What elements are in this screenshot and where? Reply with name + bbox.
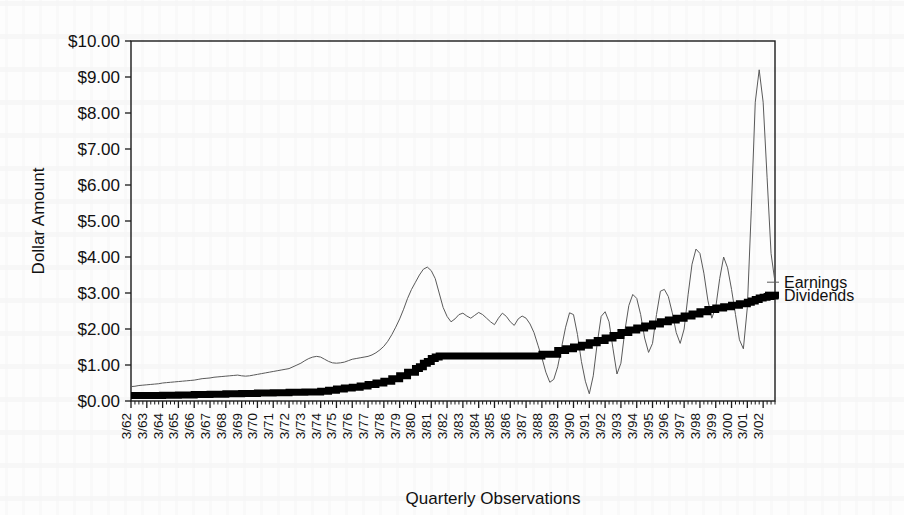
y-axis-tick-label: $5.00 [77,212,120,231]
x-axis-tick-label: 3/90 [562,413,577,439]
x-axis-tick-label: 3/02 [751,413,766,439]
x-axis-tick-label: 3/72 [277,413,292,439]
x-axis-tick-label: 3/95 [641,413,656,439]
y-axis-tick-label: $2.00 [77,320,120,339]
x-axis-tick-label: 3/87 [514,413,529,439]
x-axis-tick-label: 3/01 [735,413,750,439]
series-line-dividends [131,295,775,395]
y-axis-tick-label: $6.00 [77,176,120,195]
y-axis-tick-label: $7.00 [77,140,120,159]
x-axis-tick-label: 3/71 [261,413,276,439]
y-axis-tick-label: $10.00 [68,32,120,51]
series-line-earnings [131,70,775,394]
line-chart: $0.00$1.00$2.00$3.00$4.00$5.00$6.00$7.00… [0,0,904,515]
x-axis-tick-label: 3/92 [593,413,608,439]
x-axis-tick-label: 3/00 [720,413,735,439]
x-axis-tick-label: 3/96 [656,413,671,439]
x-axis-tick-label: 3/83 [451,413,466,439]
y-axis-title: Dollar Amount [29,167,48,274]
x-axis-tick-label: 3/82 [435,413,450,439]
y-axis-tick-label: $4.00 [77,248,120,267]
x-axis-tick-label: 3/98 [688,413,703,439]
x-axis-title: Quarterly Observations [406,489,581,508]
x-axis-tick-label: 3/88 [530,413,545,439]
x-axis-tick-label: 3/69 [230,413,245,439]
x-axis-tick-label: 3/80 [403,413,418,439]
y-axis-tick-label: $8.00 [77,104,120,123]
x-axis-tick-label: 3/91 [577,413,592,439]
x-axis-tick-label: 3/76 [340,413,355,439]
x-axis-tick-label: 3/67 [198,413,213,439]
legend-label-dividends: Dividends [784,287,854,304]
x-axis-tick-label: 3/89 [546,413,561,439]
y-axis-tick-label: $0.00 [77,392,120,411]
x-axis-tick-label: 3/99 [704,413,719,439]
x-axis-tick-label: 3/62 [119,413,134,439]
x-axis-tick-label: 3/75 [324,413,339,439]
x-axis-tick-label: 3/97 [672,413,687,439]
x-axis-tick-label: 3/84 [467,413,482,440]
x-axis-tick-label: 3/64 [151,413,166,440]
x-axis-tick-label: 3/86 [498,413,513,439]
x-axis-tick-label: 3/63 [135,413,150,439]
x-axis-tick-label: 3/79 [388,413,403,439]
x-axis-tick-label: 3/77 [356,413,371,439]
x-axis-tick-label: 3/66 [182,413,197,439]
x-axis-tick-label: 3/78 [372,413,387,439]
x-axis-tick-label: 3/74 [309,413,324,440]
chart-figure: $0.00$1.00$2.00$3.00$4.00$5.00$6.00$7.00… [0,0,904,515]
y-axis-tick-label: $9.00 [77,68,120,87]
x-axis-tick-label: 3/94 [625,413,640,440]
y-axis-tick-label: $3.00 [77,284,120,303]
y-axis-tick-label: $1.00 [77,356,120,375]
x-axis-tick-label: 3/93 [609,413,624,439]
x-axis-tick-label: 3/68 [214,413,229,439]
x-axis-tick-label: 3/70 [245,413,260,439]
x-axis-tick-label: 3/65 [166,413,181,439]
x-axis-tick-label: 3/73 [293,413,308,439]
x-axis-tick-label: 3/85 [482,413,497,439]
plot-area-border [131,41,775,401]
x-axis-tick-label: 3/81 [419,413,434,439]
